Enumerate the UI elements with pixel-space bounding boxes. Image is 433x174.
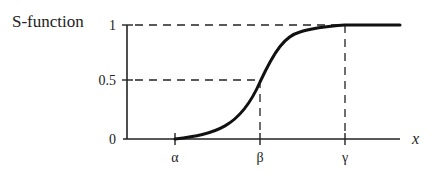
x-axis-label: x	[411, 130, 419, 147]
y-label-05: 0.5	[99, 73, 117, 88]
y-label-0: 0	[109, 132, 116, 147]
s-curve	[175, 25, 400, 139]
s-function-plot: 1 0.5 0 α β γ x	[0, 0, 433, 174]
y-label-1: 1	[109, 18, 116, 33]
x-label-alpha: α	[171, 150, 179, 165]
x-label-beta: β	[256, 150, 263, 165]
x-label-gamma: γ	[341, 150, 348, 165]
